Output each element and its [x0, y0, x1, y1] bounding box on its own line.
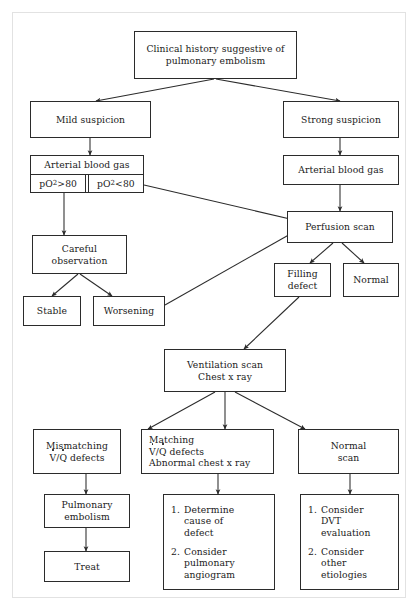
action-item-number: 2.: [308, 546, 321, 581]
action-item-line: etiologies: [321, 569, 367, 581]
strong-suspicion-label: Strong suspicion: [301, 114, 381, 126]
normal-scan-line-2: scan: [338, 452, 360, 464]
node-worsening[interactable]: Worsening: [93, 296, 165, 326]
node-careful-observation[interactable]: Careful observation: [32, 235, 127, 274]
action-item-line: cause of: [184, 515, 234, 527]
right-actions-list: 1.ConsiderDVTevaluation2.Considerotheret…: [308, 504, 394, 581]
action-item-text: ConsiderDVTevaluation: [321, 504, 371, 539]
mismatching-line-1: Mismatching: [46, 440, 108, 452]
matching-line-1: Matching: [149, 434, 194, 446]
matching-defects-word: defects: [167, 446, 204, 457]
action-item-line: pulmonary: [184, 557, 235, 569]
clinical-history-line-1: Clinical history suggestive of: [146, 43, 284, 55]
edge-observation-to-worsening: [80, 274, 112, 296]
matching-line-3: Abnormal chest x ray: [149, 457, 250, 469]
action-item-line: Consider: [321, 504, 371, 516]
mild-suspicion-label: Mild suspicion: [56, 114, 125, 126]
v-dot-glyph: V: [49, 452, 56, 464]
normal-label: Normal: [353, 274, 389, 286]
po2-low-prefix: pO: [97, 178, 111, 190]
node-middle-actions[interactable]: 1.Determinecause ofdefect2.Considerpulmo…: [163, 494, 275, 590]
node-mismatching-vq-defects[interactable]: Mismatching V/Q defects: [33, 429, 121, 474]
action-item-number: 1.: [171, 504, 184, 539]
q-dot-glyph: Q: [59, 452, 67, 464]
edge-ventilation-to-mismatching: [148, 392, 215, 429]
abg-value-row: pO2>80 pO2<80: [31, 175, 143, 193]
action-item-line: DVT: [321, 515, 371, 527]
normal-scan-line-1: Normal: [331, 440, 367, 452]
action-item-line: angiogram: [184, 569, 235, 581]
node-mild-suspicion[interactable]: Mild suspicion: [30, 101, 151, 138]
node-treat[interactable]: Treat: [44, 551, 130, 582]
action-item-text: Determinecause ofdefect: [184, 504, 234, 539]
node-matching-vq-defects[interactable]: Matching V/Q defects Abnormal chest x ra…: [141, 429, 274, 474]
careful-observation-line-2: observation: [52, 255, 108, 267]
mismatching-line-2: V/Q defects: [49, 452, 104, 464]
node-perfusion-scan[interactable]: Perfusion scan: [287, 211, 393, 243]
action-item-number: 2.: [171, 546, 184, 581]
middle-actions-list: 1.Determinecause ofdefect2.Considerpulmo…: [171, 504, 270, 581]
node-strong-suspicion[interactable]: Strong suspicion: [283, 101, 399, 138]
edge-ventilation-to-normalscan: [235, 392, 305, 429]
filling-defect-line-1: Filling: [287, 268, 318, 280]
pulmonary-embolism-line-2: embolism: [64, 511, 110, 523]
matching-line-2: V/Q defects: [149, 446, 204, 458]
q-dot-glyph: Q: [159, 446, 167, 458]
action-item-line: Determine: [184, 504, 234, 516]
action-item-line: evaluation: [321, 527, 371, 539]
po2-high-suffix: >80: [57, 178, 77, 190]
edge-perfusion-to-filling: [310, 243, 333, 263]
action-item: 1.ConsiderDVTevaluation: [308, 504, 394, 539]
careful-observation-line-1: Careful: [62, 243, 97, 255]
action-item: 1.Determinecause ofdefect: [171, 504, 270, 539]
edge-po2low-to-perfusion: [144, 185, 303, 222]
node-normal[interactable]: Normal: [343, 263, 399, 297]
abg-cell-po2-high[interactable]: pO2>80: [31, 175, 86, 193]
action-item-text: Considerpulmonaryangiogram: [184, 546, 235, 581]
perfusion-scan-label: Perfusion scan: [305, 221, 375, 233]
mismatching-defects-word: defects: [67, 452, 104, 463]
edge-history-to-mild: [96, 79, 214, 101]
node-arterial-blood-gas-left[interactable]: Arterial blood gas pO2>80 pO2<80: [30, 155, 144, 193]
action-item-line: defect: [184, 527, 234, 539]
stable-label: Stable: [37, 305, 67, 317]
node-ventilation-scan[interactable]: Ventilation scan Chest x ray: [164, 349, 286, 392]
action-item-number: 1.: [308, 504, 321, 539]
action-item-line: Consider: [184, 546, 235, 558]
node-filling-defect[interactable]: Filling defect: [274, 263, 331, 297]
action-item: 2.Considerpulmonaryangiogram: [171, 546, 270, 581]
node-clinical-history[interactable]: Clinical history suggestive of pulmonary…: [134, 31, 297, 79]
abg-cell-po2-low[interactable]: pO2<80: [88, 175, 143, 193]
node-pulmonary-embolism[interactable]: Pulmonary embolism: [44, 494, 130, 528]
pulmonary-embolism-line-1: Pulmonary: [61, 499, 112, 511]
treat-label: Treat: [74, 561, 100, 573]
flowchart-canvas: Clinical history suggestive of pulmonary…: [0, 0, 419, 611]
node-normal-scan[interactable]: Normal scan: [298, 429, 399, 474]
action-item-line: Consider: [321, 546, 367, 558]
node-arterial-blood-gas-right[interactable]: Arterial blood gas: [283, 155, 399, 185]
filling-defect-line-2: defect: [288, 280, 318, 292]
abg-header: Arterial blood gas: [31, 156, 143, 175]
po2-low-suffix: <80: [115, 178, 135, 190]
action-item-line: other: [321, 557, 367, 569]
node-stable[interactable]: Stable: [23, 296, 81, 326]
ventilation-scan-line-2: Chest x ray: [198, 371, 252, 383]
clinical-history-line-2: pulmonary embolism: [166, 55, 266, 67]
edge-history-to-strong: [216, 79, 340, 101]
action-item: 2.Considerotheretiologies: [308, 546, 394, 581]
v-dot-glyph: V: [149, 446, 156, 458]
abg-right-label: Arterial blood gas: [298, 164, 383, 176]
po2-high-prefix: pO: [39, 178, 53, 190]
ventilation-scan-line-1: Ventilation scan: [187, 359, 263, 371]
edge-observation-to-stable: [52, 274, 78, 296]
action-item-text: Considerotheretiologies: [321, 546, 367, 581]
worsening-label: Worsening: [104, 305, 154, 317]
edge-perfusion-to-normal: [342, 243, 364, 263]
edge-filling-to-ventilation: [244, 297, 299, 349]
node-right-actions[interactable]: 1.ConsiderDVTevaluation2.Considerotheret…: [300, 494, 399, 590]
